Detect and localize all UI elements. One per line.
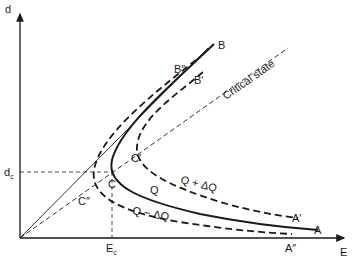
label-q: Q	[150, 184, 159, 196]
label-a1: A′	[292, 212, 301, 224]
label-a: A	[314, 224, 322, 236]
curve-q	[111, 44, 318, 230]
label-a2: A″	[285, 242, 296, 254]
label-b2: B″	[174, 63, 185, 75]
label-c2: C″	[78, 195, 90, 207]
label-q-minus: Q − ΔQ	[132, 204, 171, 222]
diagram-canvas: d E dc Ec Critical state B B″ B′ C′ C C″…	[0, 0, 354, 259]
label-c1: C′	[131, 152, 141, 164]
ec-label: Ec	[106, 242, 117, 256]
label-c: C	[108, 178, 116, 190]
label-q-plus: Q + ΔQ	[180, 173, 219, 194]
label-b: B	[218, 39, 225, 51]
dc-label: dc	[4, 166, 14, 180]
curve-q-minus	[94, 60, 292, 234]
critical-state-label: Critical state	[220, 57, 276, 102]
x-axis-label: E	[340, 246, 347, 258]
y-axis-label: d	[5, 3, 11, 15]
label-b1: B′	[194, 74, 203, 86]
